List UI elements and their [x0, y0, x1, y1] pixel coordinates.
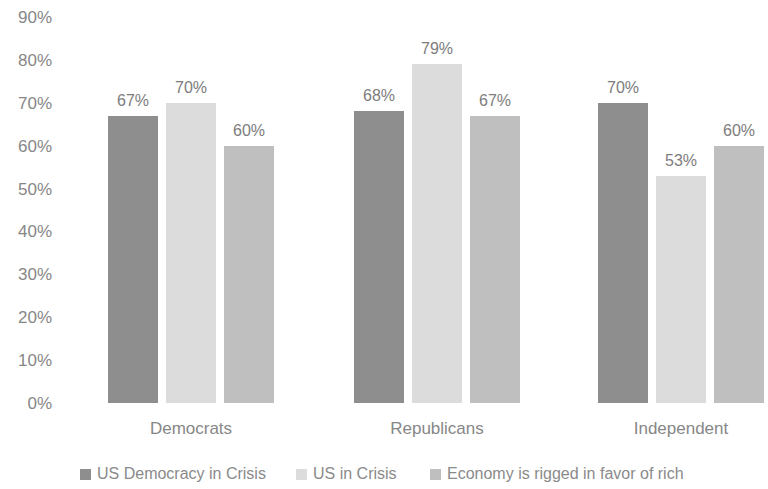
bar[interactable]: 79% — [412, 64, 462, 403]
bar-rect — [412, 64, 462, 403]
bar[interactable]: 53% — [656, 176, 706, 403]
bar[interactable]: 68% — [354, 111, 404, 403]
y-axis-tick-label: 90% — [0, 9, 52, 26]
bar-value-label: 70% — [160, 80, 222, 96]
bar-rect — [598, 103, 648, 403]
bar-rect — [354, 111, 404, 403]
y-axis: 90%80%70%60%50%40%30%20%10%0% — [0, 0, 62, 420]
bar-value-label: 53% — [650, 153, 712, 169]
bar-rect — [108, 116, 158, 403]
bar-rect — [656, 176, 706, 403]
bar-value-label: 70% — [592, 80, 654, 96]
legend-item[interactable]: US Democracy in Crisis — [80, 462, 266, 486]
legend-label: US in Crisis — [313, 465, 397, 483]
legend-label: Economy is rigged in favor of rich — [447, 465, 684, 483]
category-label: Republicans — [354, 420, 520, 438]
bar-rect — [224, 146, 274, 403]
bar-group-bars: 70%53%60% — [598, 0, 764, 403]
bar-value-label: 68% — [348, 88, 410, 104]
bar[interactable]: 67% — [470, 116, 520, 403]
bar-value-label: 67% — [102, 93, 164, 109]
bar-value-label: 60% — [708, 123, 768, 139]
plot-area: 67%70%60%68%79%67%70%53%60% — [62, 0, 757, 403]
bar[interactable]: 70% — [166, 103, 216, 403]
bar[interactable]: 67% — [108, 116, 158, 403]
bar-group: 67%70%60% — [108, 0, 274, 403]
legend-swatch-icon — [430, 469, 441, 480]
bar[interactable]: 60% — [714, 146, 764, 403]
bar-group-bars: 67%70%60% — [108, 0, 274, 403]
bar-rect — [714, 146, 764, 403]
bar-group: 70%53%60% — [598, 0, 764, 403]
y-axis-tick-label: 20% — [0, 309, 52, 326]
legend-swatch-icon — [296, 469, 307, 480]
y-axis-tick-label: 40% — [0, 223, 52, 240]
y-axis-tick-label: 70% — [0, 95, 52, 112]
category-label: Democrats — [108, 420, 274, 438]
legend-item[interactable]: US in Crisis — [296, 462, 397, 486]
category-axis: DemocratsRepublicansIndependent — [62, 403, 757, 448]
chart-legend: US Democracy in CrisisUS in CrisisEconom… — [0, 462, 757, 489]
bar-value-label: 67% — [464, 93, 526, 109]
y-axis-tick-label: 30% — [0, 266, 52, 283]
legend-item[interactable]: Economy is rigged in favor of rich — [430, 462, 684, 486]
y-axis-tick-label: 50% — [0, 181, 52, 198]
bar[interactable]: 60% — [224, 146, 274, 403]
y-axis-tick-label: 60% — [0, 138, 52, 155]
y-axis-tick-label: 10% — [0, 352, 52, 369]
bar[interactable]: 70% — [598, 103, 648, 403]
bar-group: 68%79%67% — [354, 0, 520, 403]
category-label: Independent — [598, 420, 764, 438]
legend-label: US Democracy in Crisis — [97, 465, 266, 483]
bar-value-label: 79% — [406, 41, 468, 57]
bar-value-label: 60% — [218, 123, 280, 139]
y-axis-tick-label: 80% — [0, 52, 52, 69]
bar-rect — [166, 103, 216, 403]
bar-group-bars: 68%79%67% — [354, 0, 520, 403]
y-axis-tick-label: 0% — [0, 395, 52, 412]
legend-swatch-icon — [80, 469, 91, 480]
bar-rect — [470, 116, 520, 403]
